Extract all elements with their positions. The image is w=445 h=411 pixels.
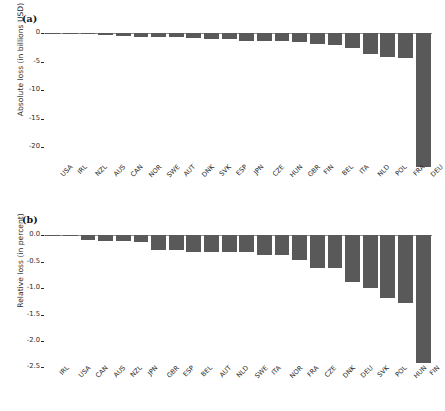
bar-bel bbox=[186, 235, 201, 252]
panel-a: (a) Absolute loss (in billions USD) 0-5-… bbox=[0, 0, 438, 205]
bar-ita bbox=[257, 235, 272, 255]
panel-b: (b) Relative loss (in percent) 0.0-0.5-1… bbox=[0, 201, 438, 406]
bar-irl bbox=[63, 33, 78, 34]
ytick-label: -15 bbox=[29, 114, 40, 122]
panel-a-plot-area: 0-5-10-15-20 USAIRLNZLAUSCANNORSWEAUTDNK… bbox=[44, 0, 432, 205]
bar-cze bbox=[257, 33, 272, 41]
bar-dnk bbox=[328, 235, 343, 268]
bar-jpn bbox=[134, 235, 149, 242]
bar-fra bbox=[292, 235, 307, 259]
bar-cze bbox=[310, 235, 325, 268]
bar-nld bbox=[363, 33, 378, 54]
ytick-label: 0 bbox=[36, 28, 40, 36]
bar-aus bbox=[98, 235, 113, 241]
bar-can bbox=[81, 235, 96, 240]
ytick-label: -0.5 bbox=[27, 257, 40, 265]
bar-svk bbox=[363, 235, 378, 287]
bar-aus bbox=[98, 33, 113, 35]
ytick-label: -1.0 bbox=[27, 283, 40, 291]
bar-nor bbox=[134, 33, 149, 36]
bar-bel bbox=[328, 33, 343, 44]
bar-dnk bbox=[186, 33, 201, 38]
panel-b-ylabel: Relative loss (in percent) bbox=[16, 181, 25, 341]
ytick-label: -5 bbox=[33, 57, 40, 65]
bar-fra bbox=[398, 33, 413, 57]
bar-gbr bbox=[151, 235, 166, 250]
ytick-label: 0.0 bbox=[29, 230, 40, 238]
bar-svk bbox=[204, 33, 219, 39]
bar-nld bbox=[222, 235, 237, 251]
bar-nzl bbox=[116, 235, 131, 241]
bar-can bbox=[116, 33, 131, 36]
ytick-label: -1.5 bbox=[27, 310, 40, 318]
bar-pol bbox=[380, 235, 395, 297]
bar-swe bbox=[151, 33, 166, 37]
bar-aut bbox=[204, 235, 219, 251]
panel-a-ylabel: Absolute loss (in billions USD) bbox=[16, 0, 25, 140]
ytick-label: -20 bbox=[29, 142, 40, 150]
bar-slot bbox=[44, 201, 62, 406]
bar-deu bbox=[345, 235, 360, 282]
ytick-label: -10 bbox=[29, 85, 40, 93]
bar-fin bbox=[416, 235, 431, 362]
bar-swe bbox=[239, 235, 254, 251]
bar-ita bbox=[345, 33, 360, 48]
bar-usa bbox=[45, 33, 60, 34]
bar-pol bbox=[380, 33, 395, 56]
bar-slot bbox=[44, 0, 62, 205]
panel-b-plot-area: 0.0-0.5-1.0-1.5-2.0-2.5 IRLUSACANAUSNZLJ… bbox=[44, 201, 432, 406]
bar-esp bbox=[169, 235, 184, 250]
bar-deu bbox=[416, 33, 431, 166]
bar-jpn bbox=[239, 33, 254, 40]
bar-hun bbox=[275, 33, 290, 41]
bar-hun bbox=[398, 235, 413, 303]
bar-irl bbox=[45, 235, 60, 236]
ytick-label: -2.5 bbox=[27, 362, 40, 370]
bar-aut bbox=[169, 33, 184, 37]
bar-usa bbox=[63, 235, 78, 236]
bar-nzl bbox=[81, 33, 96, 34]
ytick-label: -2.0 bbox=[27, 336, 40, 344]
bar-esp bbox=[222, 33, 237, 39]
bar-fin bbox=[310, 33, 325, 44]
bar-gbr bbox=[292, 33, 307, 42]
bar-nor bbox=[275, 235, 290, 255]
